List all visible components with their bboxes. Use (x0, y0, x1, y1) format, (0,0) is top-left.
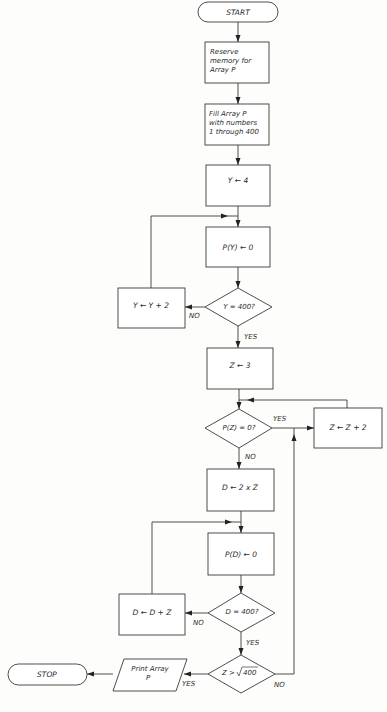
node-y-check: Y = 400? (205, 288, 272, 326)
fill-line-2: with numbers (209, 119, 257, 127)
node-start: START (198, 2, 278, 22)
arrow-down-icon (236, 281, 241, 288)
arrow-down-icon (236, 158, 241, 165)
arrow-right-icon (221, 214, 228, 219)
node-stop: STOP (8, 664, 87, 685)
branch-label-yes: YES (273, 415, 287, 423)
node-fill-array: Fill Array P with numbers 1 through 400 (205, 104, 269, 145)
fill-line-1: Fill Array P (209, 110, 247, 118)
node-print-array: Print Array P (113, 659, 187, 691)
node-reserve-memory: Reserve memory for Array P (205, 42, 269, 83)
d-check-label: D = 400? (226, 608, 259, 616)
node-pz-check: P(Z) = 0? (205, 409, 272, 448)
node-y-init: Y ← 4 (206, 165, 270, 206)
arrowheads (87, 35, 314, 677)
node-d-check: D = 400? (208, 593, 275, 632)
start-label: START (226, 8, 251, 17)
arrow-down-icon (237, 462, 242, 469)
arrow-right-icon (225, 520, 232, 525)
arrow-down-icon (239, 586, 244, 593)
arrow-down-icon (236, 97, 241, 104)
reserve-line-1: Reserve (210, 48, 238, 56)
branch-label-yes: YES (244, 333, 258, 341)
y-init-label: Y ← 4 (228, 176, 249, 185)
z-init-label: Z ← 3 (229, 361, 251, 370)
node-pd-zero: P(D) ← 0 (208, 533, 274, 575)
edge-zinc-pzcheck (239, 400, 347, 408)
flowchart-canvas: START Reserve memory for Array P Fill Ar… (0, 0, 387, 712)
arrow-left-icon (185, 305, 192, 310)
reserve-line-2: memory for (210, 57, 252, 65)
branch-label-yes: YES (182, 680, 196, 688)
arrow-down-icon (236, 35, 241, 42)
y-inc-label: Y ← Y + 2 (133, 301, 169, 310)
arrow-left-icon (247, 398, 254, 403)
edge-zsqrt-zinc (275, 428, 294, 674)
node-y-inc: Y ← Y + 2 (118, 288, 185, 328)
arrow-down-icon (239, 648, 244, 655)
z-sqrt-prefix: Z > (221, 669, 235, 677)
arrow-down-icon (239, 526, 244, 533)
branch-label-no: NO (245, 453, 256, 461)
node-py-zero: P(Y) ← 0 (206, 227, 270, 267)
arrow-right-icon (307, 426, 314, 431)
pz-check-label: P(Z) = 0? (223, 424, 256, 432)
arrow-left-icon (87, 672, 94, 677)
branch-label-no: NO (189, 312, 200, 320)
y-check-label: Y = 400? (223, 303, 255, 311)
branch-label-no: NO (274, 681, 285, 689)
arrow-up-icon (292, 434, 297, 441)
process-box (206, 165, 270, 206)
node-z-sqrt-check: Z > 400 (208, 655, 275, 693)
z-inc-label: Z ← Z + 2 (328, 423, 366, 432)
reserve-line-3: Array P (209, 66, 236, 74)
d-inc-label: D ← D + Z (133, 608, 173, 617)
decision-diamond (208, 655, 275, 693)
z-sqrt-radicand: 400 (243, 669, 257, 677)
arrow-down-icon (237, 402, 242, 409)
arrow-left-icon (184, 672, 191, 677)
py-zero-label: P(Y) ← 0 (223, 243, 254, 252)
branch-label-no: NO (193, 619, 204, 627)
d-init-label: D ← 2 x Z (222, 483, 259, 492)
node-z-init: Z ← 3 (207, 348, 273, 389)
node-d-init: D ← 2 x Z (207, 469, 274, 511)
branch-label-yes: YES (246, 639, 260, 647)
print-line-1: Print Array (131, 665, 169, 673)
node-d-inc: D ← D + Z (119, 594, 185, 635)
fill-line-3: 1 through 400 (209, 128, 259, 136)
arrow-down-icon (236, 220, 241, 227)
pd-zero-label: P(D) ← 0 (225, 550, 257, 559)
stop-label: STOP (37, 670, 57, 679)
arrow-down-icon (236, 341, 241, 348)
arrow-left-icon (185, 611, 192, 616)
node-z-inc: Z ← Z + 2 (314, 408, 382, 448)
